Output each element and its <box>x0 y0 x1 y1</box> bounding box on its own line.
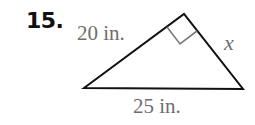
label-hypotenuse: 25 in. <box>133 94 181 119</box>
label-left-leg: 20 in. <box>77 21 125 46</box>
label-right-leg: x <box>224 30 234 56</box>
right-triangle-diagram <box>0 0 255 125</box>
right-angle-marker <box>167 27 197 44</box>
